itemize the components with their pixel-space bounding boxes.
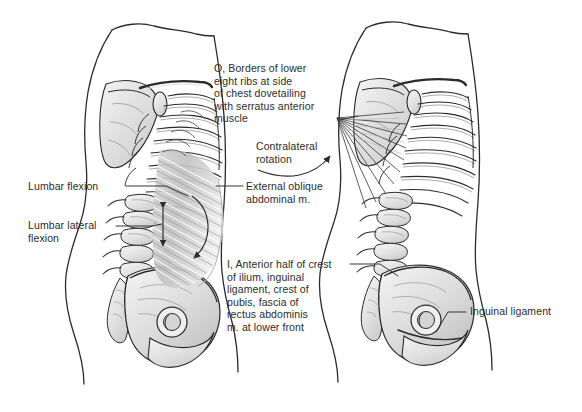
left-figure: [65, 24, 238, 384]
label-inguinal-ligament: Inguinal ligament: [470, 305, 580, 318]
label-lumbar-lateral-flexion: Lumbar lateral flexion: [28, 219, 123, 244]
right-clavicle: [394, 79, 466, 86]
label-lumbar-flexion: Lumbar flexion: [28, 180, 138, 193]
left-shoulder-contour: [112, 24, 214, 36]
left-muscle-digitations: [162, 111, 205, 156]
right-shoulder-contour: [366, 22, 468, 34]
label-origin: O, Borders of lower eight ribs at side o…: [214, 62, 359, 125]
label-contralateral-rotation: Contralateral rotation: [256, 140, 356, 165]
left-body-back-contour: [65, 30, 112, 384]
left-scapula: [100, 81, 158, 168]
label-insertion: I, Anterior half of crest of ilium, ingu…: [227, 258, 347, 334]
right-humerus-head: [407, 90, 421, 114]
left-humerus-head: [153, 92, 167, 116]
label-external-oblique: External oblique abdominal m.: [246, 180, 366, 205]
